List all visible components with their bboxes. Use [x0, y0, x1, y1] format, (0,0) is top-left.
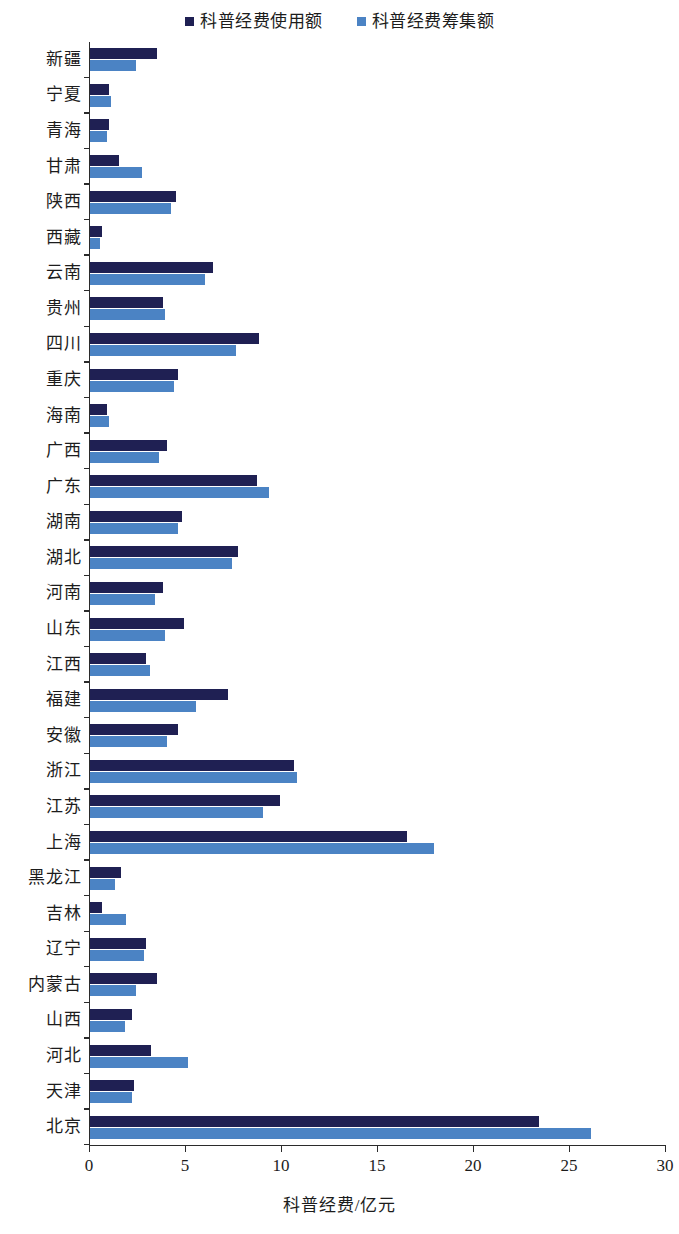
- bar-group: 山东: [90, 611, 665, 647]
- bar-used-29: [90, 1080, 134, 1091]
- y-axis-label-26: 内蒙古: [6, 976, 82, 993]
- bar-raised-12: [90, 487, 269, 498]
- y-axis-label-2: 青海: [6, 122, 82, 139]
- bar-raised-28: [90, 1057, 188, 1068]
- y-axis-label-1: 宁夏: [6, 86, 82, 103]
- y-axis-label-21: 江苏: [6, 798, 82, 815]
- y-axis-label-22: 上海: [6, 834, 82, 851]
- y-axis-label-30: 北京: [6, 1118, 82, 1135]
- bar-chart: 科普经费使用额科普经费筹集额 新疆宁夏青海甘肃陕西西藏云南贵州四川重庆海南广西广…: [0, 0, 679, 1234]
- x-tick-25: [569, 1145, 570, 1152]
- bar-used-17: [90, 653, 146, 664]
- bar-used-5: [90, 226, 102, 237]
- y-axis-label-19: 安徽: [6, 727, 82, 744]
- bar-group: 广西: [90, 433, 665, 469]
- bar-group: 海南: [90, 398, 665, 434]
- x-tick-label-25: 25: [561, 1156, 578, 1176]
- x-tick-15: [377, 1145, 378, 1152]
- x-tick-label-5: 5: [181, 1156, 190, 1176]
- bar-raised-21: [90, 807, 263, 818]
- bar-group: 吉林: [90, 896, 665, 932]
- bar-used-1: [90, 84, 109, 95]
- legend-swatch-raised: [357, 17, 366, 26]
- y-axis-label-5: 西藏: [6, 229, 82, 246]
- y-axis-label-25: 辽宁: [6, 940, 82, 957]
- bar-used-24: [90, 902, 102, 913]
- x-tick-30: [665, 1145, 666, 1152]
- y-axis-label-16: 山东: [6, 620, 82, 637]
- bar-raised-22: [90, 843, 434, 854]
- legend-swatch-used: [185, 17, 194, 26]
- bar-used-28: [90, 1045, 151, 1056]
- y-axis-label-3: 甘肃: [6, 158, 82, 175]
- bar-used-16: [90, 618, 184, 629]
- y-axis-label-23: 黑龙江: [6, 869, 82, 886]
- bar-used-21: [90, 795, 280, 806]
- legend-item-raised: 科普经费筹集额: [357, 13, 495, 30]
- x-tick-5: [185, 1145, 186, 1152]
- bar-used-0: [90, 48, 157, 59]
- bar-raised-15: [90, 594, 155, 605]
- bar-used-15: [90, 582, 163, 593]
- bar-used-14: [90, 546, 238, 557]
- bar-group: 甘肃: [90, 149, 665, 185]
- bar-raised-14: [90, 558, 232, 569]
- bar-used-4: [90, 191, 176, 202]
- y-axis-label-20: 浙江: [6, 762, 82, 779]
- bar-raised-17: [90, 665, 150, 676]
- bar-raised-24: [90, 914, 126, 925]
- x-tick-label-20: 20: [465, 1156, 482, 1176]
- legend-label-raised: 科普经费筹集额: [372, 13, 495, 30]
- bar-raised-6: [90, 274, 205, 285]
- bar-group: 江西: [90, 647, 665, 683]
- bar-group: 安徽: [90, 718, 665, 754]
- bar-group: 青海: [90, 113, 665, 149]
- bar-group: 重庆: [90, 362, 665, 398]
- plot-area: 新疆宁夏青海甘肃陕西西藏云南贵州四川重庆海南广西广东湖南湖北河南山东江西福建安徽…: [89, 42, 665, 1145]
- y-axis-label-27: 山西: [6, 1011, 82, 1028]
- bar-used-2: [90, 119, 109, 130]
- bar-raised-1: [90, 96, 111, 107]
- bar-used-23: [90, 867, 121, 878]
- y-axis-label-11: 广西: [6, 442, 82, 459]
- bar-raised-19: [90, 736, 167, 747]
- bar-group: 广东: [90, 469, 665, 505]
- bar-raised-25: [90, 950, 144, 961]
- bar-group: 内蒙古: [90, 967, 665, 1003]
- bar-used-3: [90, 155, 119, 166]
- bar-used-22: [90, 831, 407, 842]
- bar-raised-10: [90, 416, 109, 427]
- bar-group: 湖北: [90, 540, 665, 576]
- bar-used-27: [90, 1009, 132, 1020]
- bar-used-25: [90, 938, 146, 949]
- bar-raised-30: [90, 1128, 591, 1139]
- y-axis-label-15: 河南: [6, 584, 82, 601]
- bar-raised-23: [90, 879, 115, 890]
- y-axis-label-14: 湖北: [6, 549, 82, 566]
- y-axis-label-6: 云南: [6, 264, 82, 281]
- x-tick-label-30: 30: [657, 1156, 674, 1176]
- bar-group: 福建: [90, 682, 665, 718]
- x-tick-0: [89, 1145, 90, 1152]
- bar-used-6: [90, 262, 213, 273]
- bar-raised-4: [90, 203, 171, 214]
- bar-used-30: [90, 1116, 539, 1127]
- bar-group: 天津: [90, 1074, 665, 1110]
- x-tick-10: [281, 1145, 282, 1152]
- y-axis-label-29: 天津: [6, 1083, 82, 1100]
- x-tick-label-15: 15: [369, 1156, 386, 1176]
- legend-label-used: 科普经费使用额: [200, 13, 323, 30]
- bar-raised-11: [90, 452, 159, 463]
- bar-group: 北京: [90, 1109, 665, 1145]
- bar-group: 宁夏: [90, 78, 665, 114]
- y-axis-label-18: 福建: [6, 691, 82, 708]
- bar-raised-26: [90, 985, 136, 996]
- bar-group: 山西: [90, 1003, 665, 1039]
- bar-used-18: [90, 689, 228, 700]
- bar-raised-0: [90, 60, 136, 71]
- bar-group: 四川: [90, 327, 665, 363]
- x-tick-label-0: 0: [85, 1156, 94, 1176]
- bar-raised-3: [90, 167, 142, 178]
- y-axis-label-12: 广东: [6, 478, 82, 495]
- bar-group: 贵州: [90, 291, 665, 327]
